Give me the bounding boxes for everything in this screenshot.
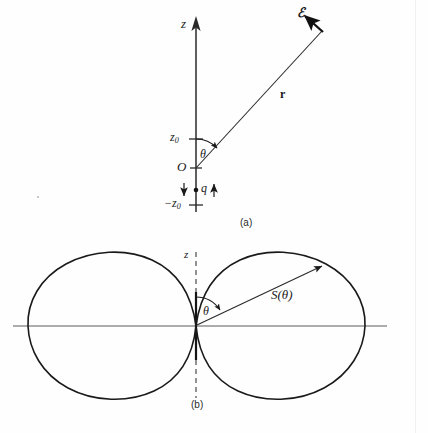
- panel-a-upper-charge-subscript: 0: [175, 136, 179, 145]
- panel-a-upper-charge-label: z0: [170, 131, 179, 145]
- scan-speck-left: [37, 196, 39, 198]
- panel-a-r-vector: [196, 31, 322, 168]
- panel-b-theta-label: θ: [203, 305, 209, 317]
- figure-root: z z0 O q −z0 θ r ℰ (a) z θ S(θ) (b): [0, 0, 428, 433]
- panel-a-charge-dot: [194, 188, 199, 193]
- panel-a-origin-label: O: [177, 160, 186, 173]
- panel-b-z-axis-label: z: [184, 249, 188, 260]
- panel-a-r-vector-label: r: [280, 88, 285, 100]
- panel-a-field-vector-label: ℰ: [297, 6, 305, 19]
- panel-a-lower-charge-symbol: −z: [164, 196, 177, 210]
- panel-a-z-axis-label: z: [181, 17, 186, 30]
- panel-b-graphics: [13, 252, 387, 399]
- panel-a-charge-label: q: [201, 182, 207, 194]
- panel-b-poynting-label: S(θ): [271, 288, 293, 301]
- panel-a-theta-label: θ: [200, 148, 206, 160]
- panel-b-caption: (b): [191, 400, 203, 410]
- panel-a-lower-charge-subscript: 0: [177, 202, 181, 211]
- scan-edge-right: [415, 0, 416, 433]
- panel-a-caption: (a): [240, 218, 252, 228]
- panel-a-field-vector: [305, 16, 323, 32]
- panel-a-lower-charge-label: −z0: [164, 197, 181, 211]
- panel-b-poynting-ray: [197, 266, 322, 325]
- figure-canvas: [0, 0, 428, 433]
